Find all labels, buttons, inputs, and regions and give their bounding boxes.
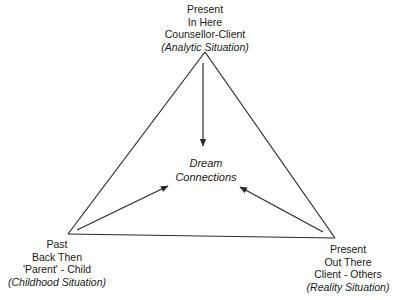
edge-top-to-bottom-left [68, 52, 205, 234]
label-bottom-left-line-1: Past [8, 238, 106, 251]
label-center-line-1: Dream [175, 157, 236, 171]
label-bottom-right-reality-situation: Present Out There Client - Others (Reali… [307, 243, 390, 293]
label-bottom-left-line-2: Back Then [8, 251, 106, 264]
label-top-line-1: Present [161, 3, 249, 16]
label-top-situation: (Analytic Situation) [161, 41, 249, 54]
arrow-bottom-right-to-center [240, 187, 323, 232]
label-center-line-2: Connections [175, 171, 236, 185]
label-bottom-right-situation: (Reality Situation) [307, 281, 390, 294]
label-bottom-right-line-1: Present [307, 243, 390, 256]
arrow-bottom-left-to-center [77, 186, 168, 230]
label-center-dream-connections: Dream Connections [175, 157, 236, 184]
label-bottom-left-childhood-situation: Past Back Then 'Parent' - Child (Childho… [8, 238, 106, 288]
label-top-analytic-situation: Present In Here Counsellor-Client (Analy… [161, 3, 249, 53]
label-bottom-left-line-3: 'Parent' - Child [8, 263, 106, 276]
label-bottom-right-line-2: Out There [307, 256, 390, 269]
triangle-diagram: Present In Here Counsellor-Client (Analy… [0, 0, 403, 300]
edge-top-to-bottom-right [205, 52, 335, 238]
label-bottom-right-line-3: Client - Others [307, 268, 390, 281]
label-bottom-left-situation: (Childhood Situation) [8, 276, 106, 289]
edge-bottom-left-to-bottom-right [68, 234, 335, 238]
label-top-line-3: Counsellor-Client [161, 28, 249, 41]
label-top-line-2: In Here [161, 16, 249, 29]
